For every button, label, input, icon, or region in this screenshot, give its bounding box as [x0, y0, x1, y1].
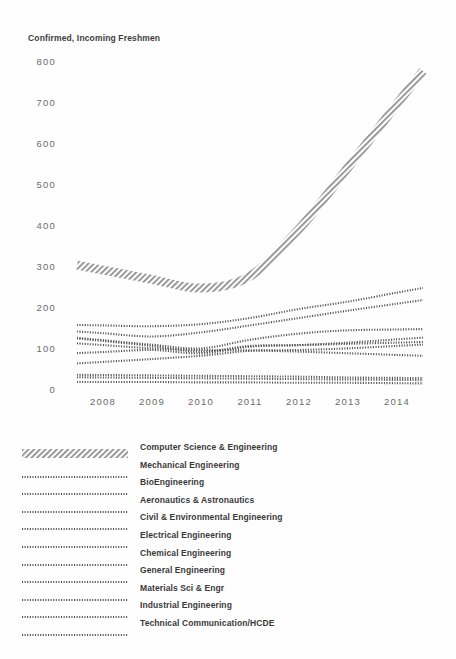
legend-label: Technical Communication/HCDE: [140, 618, 274, 628]
legend-swatch: [22, 500, 128, 504]
series-line-computer-science-engineering: [77, 71, 423, 288]
series-line-mechanical-engineering: [77, 288, 423, 326]
legend-swatch: [22, 553, 128, 557]
legend-item[interactable]: Aeronautics & Astronautics: [0, 493, 456, 511]
legend-item[interactable]: Civil & Environmental Engineering: [0, 510, 456, 528]
series-layer: [0, 0, 456, 430]
series-line-bioengineering: [77, 300, 423, 336]
legend-item[interactable]: Materials Sci & Engr: [0, 581, 456, 599]
legend-swatch: [22, 465, 128, 469]
legend-label: Mechanical Engineering: [140, 460, 240, 470]
series-line-materials-sci-engr: [77, 375, 423, 378]
legend-swatch: [22, 482, 128, 486]
legend-label: Aeronautics & Astronautics: [140, 495, 254, 505]
legend-swatch: [22, 444, 128, 453]
series-line-general-engineering: [77, 343, 423, 355]
chart-page: Confirmed, Incoming Freshmen 80070060050…: [0, 0, 456, 659]
legend-swatch: [22, 605, 128, 609]
legend-item[interactable]: Chemical Engineering: [0, 546, 456, 564]
legend-item[interactable]: Electrical Engineering: [0, 528, 456, 546]
chart-legend: Computer Science & EngineeringMechanical…: [0, 440, 456, 634]
legend-item[interactable]: Technical Communication/HCDE: [0, 616, 456, 634]
legend-swatch: [22, 570, 128, 574]
plot-area: 8007006005004003002001000 20082009201020…: [0, 0, 456, 430]
legend-swatch: [22, 588, 128, 592]
legend-item[interactable]: Industrial Engineering: [0, 598, 456, 616]
legend-swatch: [22, 517, 128, 521]
series-line-electrical-engineering: [77, 338, 423, 351]
legend-label: Civil & Environmental Engineering: [140, 512, 283, 522]
legend-label: BioEngineering: [140, 477, 204, 487]
legend-item[interactable]: BioEngineering: [0, 475, 456, 493]
legend-label: Electrical Engineering: [140, 530, 231, 540]
legend-item[interactable]: Computer Science & Engineering: [0, 440, 456, 458]
legend-label: Chemical Engineering: [140, 548, 231, 558]
series-line-technical-communication-hcde: [77, 382, 423, 383]
legend-swatch: [22, 623, 128, 627]
legend-item[interactable]: General Engineering: [0, 563, 456, 581]
legend-label: Materials Sci & Engr: [140, 583, 224, 593]
legend-label: Computer Science & Engineering: [140, 442, 278, 452]
series-line-aeronautics-astronautics: [77, 329, 423, 348]
legend-swatch: [22, 535, 128, 539]
legend-label: General Engineering: [140, 565, 225, 575]
legend-label: Industrial Engineering: [140, 600, 232, 610]
legend-item[interactable]: Mechanical Engineering: [0, 458, 456, 476]
